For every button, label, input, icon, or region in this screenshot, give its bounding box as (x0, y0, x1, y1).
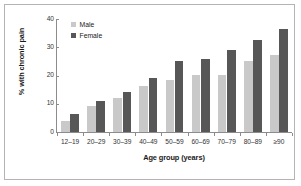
x-axis-line (56, 132, 292, 133)
bar-male-0 (61, 121, 70, 132)
legend-label: Female (80, 32, 103, 39)
y-axis-tick-label: 0 (36, 128, 54, 135)
bar-male-2 (113, 98, 122, 132)
bar-male-3 (139, 86, 148, 132)
legend-swatch-icon (71, 22, 76, 27)
legend-label: Male (80, 21, 95, 28)
bar-male-7 (244, 61, 253, 132)
x-axis-tick (135, 133, 136, 136)
x-axis-tick-label: 60–69 (188, 138, 214, 145)
legend-item-male: Male (71, 20, 102, 29)
chart-legend: MaleFemale (71, 20, 102, 42)
y-axis-tick-label: 10 (36, 99, 54, 106)
x-axis-tick (161, 133, 162, 136)
y-axis-tick-label: 30 (36, 43, 54, 50)
y-axis-tick-label: 40 (36, 15, 54, 22)
legend-swatch-icon (71, 33, 76, 38)
x-axis-tick (266, 133, 267, 136)
x-axis-tick-label: 12–19 (57, 138, 83, 145)
bar-male-1 (87, 106, 96, 132)
bar-male-8 (270, 55, 279, 132)
x-axis-tick-label: 80–89 (240, 138, 266, 145)
x-axis-title: Age group (years) (56, 153, 292, 162)
x-axis-tick-label: 40–49 (135, 138, 161, 145)
bar-male-4 (166, 80, 175, 132)
x-axis-tick (292, 133, 293, 136)
x-axis-tick-label: 50–59 (161, 138, 187, 145)
bar-female-0 (70, 114, 79, 132)
bar-male-6 (218, 75, 227, 132)
x-axis-tick (188, 133, 189, 136)
bar-female-4 (175, 61, 184, 132)
x-axis-tick (240, 133, 241, 136)
bar-female-5 (201, 59, 210, 132)
y-axis-tick-label: 20 (36, 71, 54, 78)
bar-female-7 (253, 40, 262, 132)
y-axis-title: % with chronic pain (17, 10, 26, 114)
bar-male-5 (192, 75, 201, 132)
bar-female-1 (96, 101, 105, 132)
legend-item-female: Female (71, 31, 102, 40)
bar-female-2 (123, 92, 132, 132)
bar-female-3 (149, 78, 158, 132)
bar-female-6 (227, 50, 236, 132)
figure-frame: % with chronic pain 010203040 12–1920–29… (4, 4, 295, 180)
x-axis-tick-label: 70–79 (214, 138, 240, 145)
x-axis-tick (109, 133, 110, 136)
bar-female-8 (279, 29, 288, 132)
x-axis-tick (57, 133, 58, 136)
x-axis-tick-label: 20–29 (83, 138, 109, 145)
x-axis-tick-label: ≥90 (266, 138, 292, 145)
x-axis-tick-label: 30–39 (109, 138, 135, 145)
chart-plot-area: % with chronic pain 010203040 12–1920–29… (5, 5, 296, 181)
x-axis-tick (83, 133, 84, 136)
x-axis-tick (214, 133, 215, 136)
